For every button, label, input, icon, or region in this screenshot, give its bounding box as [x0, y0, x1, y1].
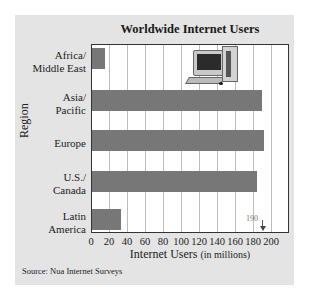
mouse-icon: [219, 82, 223, 85]
x-tick-label: 120: [191, 236, 207, 247]
x-tick-label: 60: [140, 236, 151, 247]
x-tick-label: 0: [88, 236, 93, 247]
x-tick-label: 20: [104, 236, 115, 247]
gridline: [271, 45, 272, 232]
category-label: Europe: [54, 137, 86, 150]
x-tick-label: 100: [173, 236, 189, 247]
x-tick-label: 40: [122, 236, 133, 247]
chart-title: Worldwide Internet Users: [91, 22, 289, 37]
screen: [197, 54, 221, 70]
x-axis-label-text: Internet Users: [130, 247, 198, 261]
x-tick-label: 80: [158, 236, 169, 247]
annotation-label: 190: [246, 214, 258, 223]
x-tick-label: 200: [263, 236, 279, 247]
x-axis-unit: (in millions): [200, 249, 250, 260]
bar: [92, 171, 257, 192]
bar: [92, 48, 105, 69]
category-label: Africa/Middle East: [33, 49, 86, 75]
category-label: Asia/Pacific: [55, 91, 86, 117]
bar: [92, 209, 121, 230]
tower-front: [226, 51, 231, 77]
x-tick-label: 140: [209, 236, 225, 247]
bar: [92, 130, 264, 151]
category-label: LatinAmerica: [48, 210, 86, 236]
arrow-down-icon: [260, 226, 266, 231]
plot-area: [91, 44, 289, 233]
x-axis-label: Internet Users (in millions): [91, 247, 289, 262]
bar: [92, 90, 262, 111]
source-note: Source: Nua Internet Surveys: [22, 266, 122, 276]
tower-icon: [222, 46, 238, 82]
x-tick-label: 160: [227, 236, 243, 247]
x-tick-label: 180: [245, 236, 261, 247]
y-axis-label: Region: [17, 103, 32, 138]
category-label: U.S./Canada: [53, 171, 86, 197]
